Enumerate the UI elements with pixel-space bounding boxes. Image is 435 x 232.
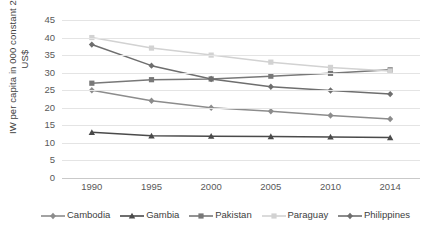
legend-item-label: Gambia <box>145 209 179 220</box>
data-point-marker <box>149 62 155 68</box>
y-axis-tick-label: 10 <box>35 138 55 148</box>
data-point-marker <box>387 91 393 97</box>
legend-item-label: Philippines <box>363 209 410 220</box>
y-axis-tick-label: 40 <box>35 33 55 43</box>
data-point-marker <box>268 84 274 90</box>
gridline <box>62 160 420 161</box>
series-line <box>92 132 390 137</box>
x-axis-tick-label: 1995 <box>129 181 175 192</box>
y-axis-tick-labels: 051015202530354045 <box>33 0 55 232</box>
gridline <box>62 20 420 21</box>
data-point-marker <box>199 213 204 218</box>
gridline <box>62 90 420 91</box>
data-point-marker <box>268 108 274 114</box>
y-axis-tick-label: 20 <box>35 103 55 113</box>
data-point-marker <box>89 41 95 47</box>
data-point-marker <box>149 77 154 82</box>
y-axis-tick-label: 35 <box>35 50 55 60</box>
gridline <box>62 38 420 39</box>
data-point-marker <box>149 45 154 50</box>
legend-swatch-icon <box>119 208 145 220</box>
data-point-marker <box>149 98 155 104</box>
legend-item-cambodia[interactable]: Cambodia <box>40 208 110 220</box>
gridline <box>62 125 420 126</box>
x-axis-tick-labels: 199019952000200520102014 <box>62 181 420 197</box>
data-point-marker <box>89 81 94 86</box>
y-axis-tick-label: 15 <box>35 120 55 130</box>
chart-legend: CambodiaGambiaPakistanParaguayPhilippine… <box>40 205 410 223</box>
data-point-marker <box>328 112 334 118</box>
y-axis-tick-label: 5 <box>35 155 55 165</box>
y-axis-tick-label: 30 <box>35 68 55 78</box>
x-axis-line <box>62 178 420 179</box>
y-axis-tick-label: 0 <box>35 173 55 183</box>
x-axis-tick-label: 2000 <box>188 181 234 192</box>
series-line <box>92 45 390 95</box>
series-canvas <box>62 20 420 178</box>
x-axis-tick-label: 2014 <box>367 181 413 192</box>
legend-swatch-icon <box>40 208 66 220</box>
data-point-marker <box>328 65 333 70</box>
series-gambia <box>89 129 394 140</box>
x-axis-tick-label: 1990 <box>69 181 115 192</box>
data-point-marker <box>50 213 56 219</box>
data-point-marker <box>387 116 393 122</box>
gridline <box>62 73 420 74</box>
inclusive-wealth-line-chart: IW per capita in 000 constant 2005 US$ 0… <box>0 0 435 232</box>
data-point-marker <box>271 213 276 218</box>
legend-item-label: Paraguay <box>287 209 329 220</box>
y-axis-tick-label: 45 <box>35 15 55 25</box>
gridline <box>62 55 420 56</box>
x-axis-tick-label: 2005 <box>248 181 294 192</box>
gridline <box>62 143 420 144</box>
legend-item-label: Pakistan <box>214 209 251 220</box>
data-point-marker <box>347 213 353 219</box>
gridline <box>62 108 420 109</box>
legend-swatch-icon <box>188 208 214 220</box>
legend-swatch-icon <box>261 208 287 220</box>
legend-swatch-icon <box>337 208 363 220</box>
plot-area <box>62 20 420 178</box>
legend-item-paraguay[interactable]: Paraguay <box>261 208 329 220</box>
data-point-marker <box>268 60 273 65</box>
x-axis-tick-label: 2010 <box>308 181 354 192</box>
series-line <box>92 90 390 119</box>
legend-item-philippines[interactable]: Philippines <box>337 208 410 220</box>
series-philippines <box>89 41 393 97</box>
legend-item-label: Cambodia <box>66 209 110 220</box>
y-axis-tick-label: 25 <box>35 85 55 95</box>
data-point-marker <box>268 74 273 79</box>
legend-item-gambia[interactable]: Gambia <box>119 208 179 220</box>
legend-item-pakistan[interactable]: Pakistan <box>188 208 251 220</box>
